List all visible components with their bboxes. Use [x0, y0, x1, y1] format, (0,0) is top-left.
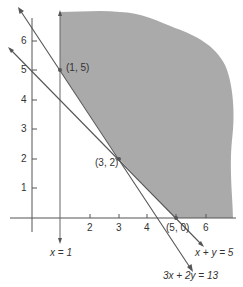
vertex-label-3-2: (3, 2): [95, 157, 118, 168]
shaded-feasible-region: [60, 11, 234, 218]
x-tick-label: 6: [203, 222, 209, 233]
y-tick-label: 2: [21, 153, 27, 164]
y-tick-label: 4: [21, 94, 27, 105]
vertex-point: [174, 216, 178, 220]
y-tick-label: 3: [21, 123, 27, 134]
vertex-label-1-5: (1, 5): [66, 62, 89, 73]
y-ticks: [32, 41, 37, 188]
vertex-label-5-0: (5, 0): [166, 222, 189, 233]
arrow-icon: [18, 7, 24, 14]
line-label-x-plus-y-5: x + y = 5: [194, 247, 234, 258]
y-tick-label: 5: [21, 64, 27, 75]
vertex-point: [58, 68, 62, 72]
feasible-region-chart: 1 2 3 4 5 6 2 3 4 6 (1, 5) (3, 2) (5, 0)…: [0, 0, 243, 287]
line-label-3x-plus-2y-13: 3x + 2y = 13: [163, 270, 218, 281]
y-tick-label: 6: [21, 35, 27, 46]
x-tick-label: 3: [116, 222, 122, 233]
y-tick-label: 1: [21, 182, 27, 193]
x-tick-label: 4: [144, 222, 150, 233]
arrow-icon: [58, 238, 62, 244]
x-tick-label: 2: [87, 222, 93, 233]
line-label-x-equals-1: x = 1: [49, 247, 72, 258]
